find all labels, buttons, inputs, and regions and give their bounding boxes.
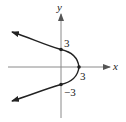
point-vertex	[77, 65, 81, 69]
x-intercept-label: 3	[80, 70, 86, 82]
y-intercept-bottom-label: −3	[64, 86, 76, 98]
y-axis-label: y	[56, 1, 62, 13]
parabola-graph: y x 3 3 −3	[0, 0, 126, 122]
y-intercept-top-label: 3	[64, 37, 70, 49]
x-axis-label: x	[112, 60, 118, 72]
point-y-intercept-bottom	[59, 83, 63, 87]
point-y-intercept-top	[59, 48, 63, 52]
